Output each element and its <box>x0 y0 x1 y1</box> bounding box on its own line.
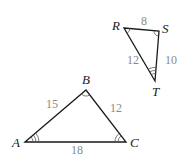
vertex-s-label: S <box>162 21 169 36</box>
similar-triangles-diagram: A B C 15 12 18 R S T 8 10 12 <box>0 0 192 157</box>
vertex-b-label: B <box>82 72 90 87</box>
vertex-r-label: R <box>111 18 120 33</box>
triangle-abc-outline <box>25 90 126 142</box>
side-rt-length: 12 <box>127 53 139 67</box>
vertex-a-label: A <box>11 135 20 150</box>
vertex-t-label: T <box>152 84 160 99</box>
side-ac-length: 18 <box>71 143 83 157</box>
side-rs-length: 8 <box>141 14 147 28</box>
angle-r-mark <box>127 29 130 34</box>
side-bc-length: 12 <box>110 101 122 115</box>
side-ab-length: 15 <box>46 97 58 111</box>
vertex-c-label: C <box>130 135 139 150</box>
triangle-abc: A B C 15 12 18 <box>11 72 139 157</box>
side-st-length: 10 <box>165 53 177 67</box>
triangle-rst: R S T 8 10 12 <box>111 14 177 99</box>
